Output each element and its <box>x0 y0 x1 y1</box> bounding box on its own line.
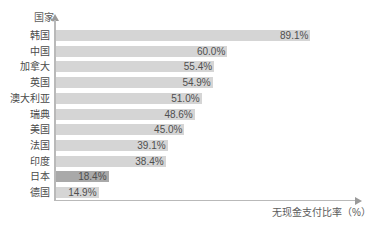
x-axis-label: 无现金支付比率（%） <box>175 207 371 219</box>
category-label: 加拿大 <box>0 59 50 74</box>
bar-chart: 国家 韩国89.1%中国60.0%加拿大55.4%英国54.9%澳大利亚51.0… <box>0 0 375 227</box>
bar-value-label: 51.0% <box>162 91 200 106</box>
bar-row: 韩国89.1% <box>0 28 375 43</box>
category-label: 印度 <box>0 154 50 169</box>
bar-value-label: 18.4% <box>69 169 107 184</box>
bar-row: 澳大利亚51.0% <box>0 91 375 106</box>
category-label: 法国 <box>0 138 50 153</box>
category-label: 中国 <box>0 44 50 59</box>
bar-value-label: 48.6% <box>155 107 193 122</box>
bar-row: 加拿大55.4% <box>0 59 375 74</box>
bar-row: 中国60.0% <box>0 44 375 59</box>
category-label: 韩国 <box>0 28 50 43</box>
category-label: 日本 <box>0 169 50 184</box>
bar-row: 美国45.0% <box>0 122 375 137</box>
bar-row: 英国54.9% <box>0 75 375 90</box>
bar-row: 瑞典48.6% <box>0 107 375 122</box>
category-label: 瑞典 <box>0 107 50 122</box>
bar-rows: 韩国89.1%中国60.0%加拿大55.4%英国54.9%澳大利亚51.0%瑞典… <box>0 0 375 200</box>
category-label: 德国 <box>0 185 50 200</box>
bar-value-label: 45.0% <box>144 122 182 137</box>
x-axis-line <box>54 200 357 201</box>
bar-value-label: 39.1% <box>128 138 166 153</box>
bar-value-label: 55.4% <box>174 59 212 74</box>
bar-value-label: 14.9% <box>59 185 97 200</box>
x-axis-arrow-icon <box>355 197 362 205</box>
bar-value-label: 60.0% <box>187 44 225 59</box>
bar-row: 法国39.1% <box>0 138 375 153</box>
bar-row: 印度38.4% <box>0 154 375 169</box>
bar-value-label: 89.1% <box>270 28 308 43</box>
category-label: 美国 <box>0 122 50 137</box>
category-label: 英国 <box>0 75 50 90</box>
category-label: 澳大利亚 <box>0 91 50 106</box>
bar-value-label: 54.9% <box>173 75 211 90</box>
bar-row: 日本18.4% <box>0 169 375 184</box>
bar-row: 德国14.9% <box>0 185 375 200</box>
bar-value-label: 38.4% <box>126 154 164 169</box>
